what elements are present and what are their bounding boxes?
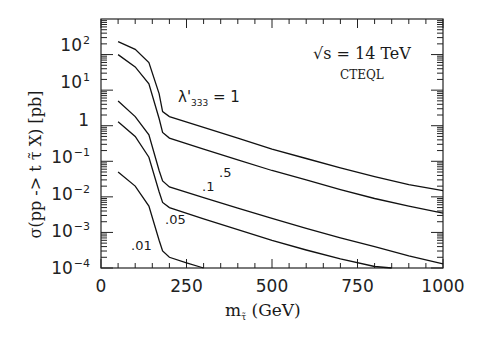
series-line <box>118 101 443 264</box>
x-tick-label: 1000 <box>421 276 464 296</box>
curve-label-0.1: .1 <box>202 179 214 194</box>
x-tick-label: 250 <box>170 276 202 296</box>
energy-annotation: √s = 14 TeV <box>313 44 411 63</box>
x-tick-label: 0 <box>96 276 107 296</box>
y-tick-label: 10−4 <box>30 257 90 278</box>
lambda-annotation: λ'333 = 1 <box>178 88 240 108</box>
y-tick-label: 102 <box>30 34 90 55</box>
series-line <box>118 42 443 191</box>
curve-label-0.01: .01 <box>131 238 152 253</box>
curve-label-0.5: .5 <box>219 165 231 180</box>
series-curves <box>118 42 443 268</box>
pdf-annotation: CTEQL <box>340 68 384 82</box>
curve-label-0.05: .05 <box>165 212 186 227</box>
series-line <box>118 172 204 268</box>
y-tick-label: 101 <box>30 71 90 92</box>
x-tick-label: 500 <box>256 276 288 296</box>
x-tick-label: 750 <box>341 276 373 296</box>
series-line <box>118 55 443 214</box>
x-axis-title: mτ̃ (GeV) <box>225 300 301 322</box>
